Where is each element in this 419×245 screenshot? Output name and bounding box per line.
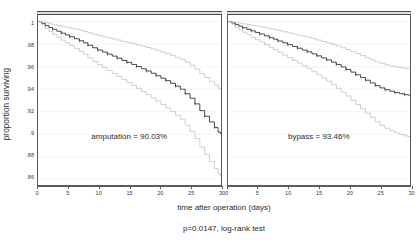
km-curve-ci_lower bbox=[228, 22, 411, 137]
x-axis-tick-mark bbox=[412, 186, 413, 189]
x-axis-tick-label: 15 bbox=[126, 190, 132, 196]
x-axis-tick-label: 0 bbox=[35, 190, 38, 196]
x-axis-tick-label: 25 bbox=[378, 190, 384, 196]
y-axis-title-label: proportion surviving bbox=[2, 44, 11, 164]
x-axis-amputation: 051015202530 bbox=[37, 186, 222, 202]
x-axis-tick-mark bbox=[257, 186, 258, 189]
y-axis-tick-label: .88 bbox=[26, 152, 34, 158]
x-axis-bypass: 051015202530 bbox=[227, 186, 412, 202]
x-axis-tick-label: 0 bbox=[225, 190, 228, 196]
x-axis-tick-label: 10 bbox=[285, 190, 291, 196]
x-axis-tick-label: 5 bbox=[256, 190, 259, 196]
panel-annotation-amputation: amputation = 90.03% bbox=[38, 132, 221, 141]
panel-amputation: amputation = 90.03% bbox=[37, 12, 222, 186]
y-axis-tick-labels: 1.98.96.94.92.9.88.86 bbox=[18, 18, 34, 182]
panel-bypass: bypass = 93.46% bbox=[227, 12, 412, 186]
logrank-footnote: p=0.0147, log-rank test bbox=[37, 224, 411, 233]
y-axis-title: proportion surviving bbox=[2, 0, 14, 52]
y-axis-tick-label: .86 bbox=[26, 174, 34, 180]
x-axis-tick-mark bbox=[99, 186, 100, 189]
x-axis-tick-label: 30 bbox=[408, 190, 414, 196]
panel-top-rule bbox=[227, 11, 412, 15]
x-axis-tick-label: 25 bbox=[188, 190, 194, 196]
x-axis-tick-mark bbox=[319, 186, 320, 189]
y-axis-tick-label: .92 bbox=[26, 108, 34, 114]
km-curves bbox=[228, 16, 411, 185]
x-axis-tick-mark bbox=[222, 186, 223, 189]
plot-area-bypass bbox=[228, 16, 411, 185]
x-axis-tick-mark bbox=[130, 186, 131, 189]
x-axis-tick-mark bbox=[288, 186, 289, 189]
panel-container: amputation = 90.03% bypass = 93.46% bbox=[37, 12, 411, 186]
x-axis-tick-label: 20 bbox=[347, 190, 353, 196]
y-axis-tick-label: .98 bbox=[26, 42, 34, 48]
km-curves bbox=[38, 16, 221, 185]
x-axis-tick-mark bbox=[160, 186, 161, 189]
x-axis-container: 051015202530 051015202530 bbox=[37, 186, 411, 202]
y-axis-tick-label: 1 bbox=[31, 20, 34, 26]
plot-area-amputation bbox=[38, 16, 221, 185]
km-curve-ci_upper bbox=[38, 22, 221, 90]
y-axis-tick-label: .9 bbox=[29, 130, 34, 136]
km-curve-ci_upper bbox=[228, 22, 411, 69]
panel-top-rule bbox=[37, 11, 222, 15]
x-axis-tick-label: 20 bbox=[157, 190, 163, 196]
x-axis-tick-mark bbox=[227, 186, 228, 189]
panel-annotation-bypass: bypass = 93.46% bbox=[228, 132, 411, 141]
x-axis-tick-mark bbox=[381, 186, 382, 189]
x-axis-tick-label: 5 bbox=[66, 190, 69, 196]
km-survival-figure: proportion surviving 1.98.96.94.92.9.88.… bbox=[0, 0, 419, 245]
x-axis-title: time after operation (days) bbox=[37, 203, 411, 212]
x-axis-tick-label: 15 bbox=[316, 190, 322, 196]
x-axis-tick-mark bbox=[37, 186, 38, 189]
y-axis-tick-label: .94 bbox=[26, 86, 34, 92]
km-curve-ci_lower bbox=[38, 22, 221, 177]
x-axis-tick-mark bbox=[68, 186, 69, 189]
x-axis-tick-mark bbox=[191, 186, 192, 189]
x-axis-tick-label: 10 bbox=[96, 190, 102, 196]
x-axis-tick-mark bbox=[350, 186, 351, 189]
km-curve-estimate bbox=[228, 22, 411, 96]
km-curve-estimate bbox=[38, 22, 221, 134]
y-axis-tick-label: .96 bbox=[26, 64, 34, 70]
